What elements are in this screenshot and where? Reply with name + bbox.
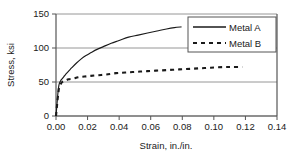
x-tick-label: 0.06 [141, 121, 160, 132]
y-tick-label: 50 [38, 76, 49, 87]
chart-screenshot: 0.000.020.040.060.080.100.120.14 0501001… [0, 0, 300, 160]
y-tick-label: 150 [33, 8, 49, 19]
y-tick-label: 100 [33, 42, 49, 53]
x-tick-label: 0.10 [205, 121, 224, 132]
stress-strain-chart: 0.000.020.040.060.080.100.120.14 0501001… [0, 0, 300, 160]
x-tick-label: 0.14 [268, 121, 287, 132]
x-tick-label: 0.08 [173, 121, 192, 132]
legend-label-metal-b: Metal B [229, 38, 261, 49]
x-tick-label: 0.12 [236, 121, 255, 132]
x-tick-label: 0.00 [47, 121, 66, 132]
y-tick-label: 0 [44, 110, 49, 121]
x-tick-label: 0.04 [110, 121, 129, 132]
legend[interactable]: Metal A Metal B [188, 17, 276, 52]
y-axis-title: Stress, ksi [5, 43, 16, 87]
legend-label-metal-a: Metal A [229, 22, 261, 33]
x-tick-label: 0.02 [78, 121, 97, 132]
x-axis-title: Strain, in./in. [140, 140, 193, 151]
